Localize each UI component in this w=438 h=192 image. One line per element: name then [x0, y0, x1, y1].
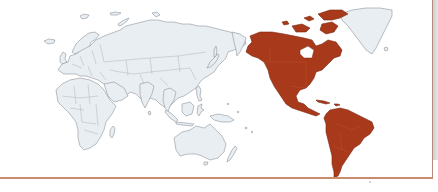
svalbard-west — [384, 47, 388, 51]
sri-lanka — [148, 111, 151, 115]
british-isles — [60, 52, 67, 64]
borneo — [182, 102, 194, 116]
sumatra — [165, 110, 178, 122]
frame-bottom-rule — [0, 177, 433, 179]
cuba — [316, 100, 330, 104]
region-americas — [246, 10, 374, 183]
severnaya-zemlya — [152, 12, 160, 17]
victoria-island — [292, 24, 310, 32]
arctic-islands-1 — [304, 16, 314, 21]
new-guinea — [210, 114, 234, 122]
arctic-islands-2 — [282, 21, 289, 25]
hispaniola — [334, 104, 340, 106]
franz-josef — [110, 12, 121, 15]
frame-right-rule — [432, 0, 433, 179]
australia — [174, 124, 226, 160]
svalbard — [80, 14, 89, 19]
madagascar — [110, 126, 115, 138]
tasmania — [204, 162, 208, 165]
greenland — [340, 8, 392, 54]
novaya-zemlya — [118, 18, 129, 26]
baffin-island — [320, 22, 338, 34]
world-map — [0, 0, 438, 192]
philippines — [196, 86, 202, 101]
south-america — [324, 108, 374, 178]
region-greenland — [340, 8, 392, 54]
java — [176, 122, 194, 126]
new-zealand — [227, 146, 237, 162]
iceland — [44, 39, 55, 44]
sulawesi — [197, 104, 204, 116]
indochina — [163, 88, 176, 112]
